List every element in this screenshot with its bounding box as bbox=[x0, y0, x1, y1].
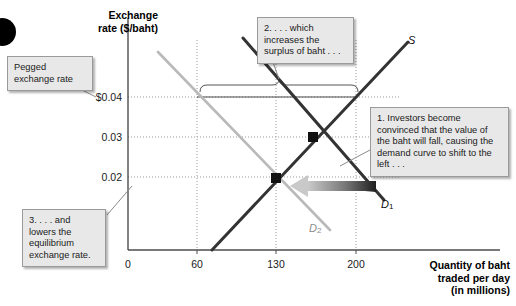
page-edge-dot bbox=[0, 18, 16, 46]
x-tick-label-0: 0 bbox=[108, 258, 148, 270]
equilibrium-point-initial bbox=[308, 132, 318, 142]
x-tick-label-200: 200 bbox=[336, 258, 376, 270]
figure-container: Exchange rate ($/baht) Quantity of baht … bbox=[0, 0, 516, 306]
x-tick-label-60: 60 bbox=[177, 258, 217, 270]
y-axis-title: Exchange rate ($/baht) bbox=[66, 9, 158, 34]
x-tick-label-130: 130 bbox=[256, 258, 296, 270]
demand-shift-arrow bbox=[290, 175, 376, 197]
demand-d1-letter: D bbox=[381, 198, 389, 210]
demand-d2-letter: D bbox=[309, 222, 317, 234]
callout-step-1: 1. Investors become convinced that the v… bbox=[370, 107, 509, 177]
demand-curve-d2 bbox=[158, 52, 330, 230]
y-tick-label-003: 0.03 bbox=[66, 131, 122, 143]
x-axis-title: Quantity of baht traded per day (in mill… bbox=[382, 259, 510, 297]
callout-step-2: 2. . . . which increases the surplus of … bbox=[257, 17, 354, 64]
y-tick-label-002: 0.02 bbox=[66, 171, 122, 183]
demand-curve-d2-label: D2 bbox=[309, 222, 321, 235]
equilibrium-point-new bbox=[271, 173, 281, 183]
callout-step-3: 3. . . . and lowers the equilibrium exch… bbox=[22, 209, 106, 267]
callout-pegged-exchange-rate: Pegged exchange rate bbox=[7, 56, 93, 91]
demand-d2-subscript: 2 bbox=[317, 226, 321, 235]
gridlines-horizontal bbox=[128, 97, 400, 177]
y-tick-label-004: $0.04 bbox=[66, 91, 122, 103]
demand-d1-subscript: 1 bbox=[389, 202, 393, 211]
demand-curve-d1-label: D1 bbox=[381, 198, 393, 211]
supply-curve-label: S bbox=[408, 34, 415, 46]
